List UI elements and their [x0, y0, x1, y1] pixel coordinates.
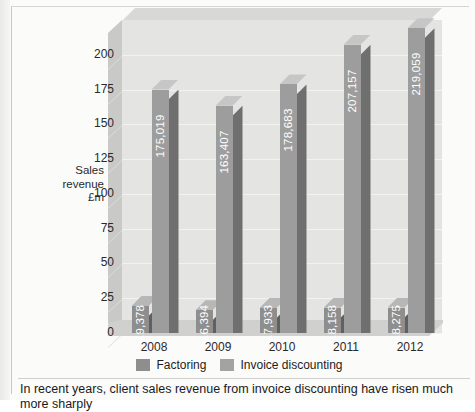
x-axis-label-2009: 2009 — [188, 340, 248, 354]
legend-swatch-icon — [220, 359, 234, 371]
bar-value-label: 178,683 — [282, 109, 294, 152]
y-tick-label-25: 25 — [70, 290, 114, 304]
bar-side-face — [233, 106, 243, 333]
y-axis-title-line-2: revenue — [42, 178, 104, 192]
bar-value-label: 18,158 — [326, 305, 338, 341]
y-tick-label-150: 150 — [70, 116, 114, 130]
bar-top-face — [280, 74, 307, 84]
bar-value-label: 18,275 — [390, 305, 402, 341]
bar-invoice-discounting-2011: 207,157 — [344, 45, 361, 333]
y-tick-label-0: 0 — [70, 325, 114, 339]
y-tick-label-75: 75 — [70, 221, 114, 235]
x-axis-label-2011: 2011 — [316, 340, 376, 354]
caption-text: In recent years, client sales revenue fr… — [20, 382, 465, 412]
bar-value-label: 17,933 — [262, 305, 274, 341]
bar-factoring-2010: 17,933 — [260, 308, 277, 333]
y-tick-label-175: 175 — [70, 82, 114, 96]
bar-side-face — [425, 28, 435, 333]
y-tick-label-125: 125 — [70, 151, 114, 165]
x-axis-labels: 20082009201020112012 — [12, 340, 467, 358]
bar-invoice-discounting-2010: 178,683 — [280, 84, 297, 333]
bar-top-face — [408, 18, 435, 28]
sales-revenue-bar-chart: 19,378175,01916,394163,40717,933178,6831… — [12, 8, 467, 356]
bar-side-face — [361, 45, 371, 333]
legend-label: Factoring — [156, 358, 206, 372]
y-axis-title: Sales revenue £m — [42, 164, 104, 205]
bar-top-face — [344, 35, 371, 45]
y-tick-label-50: 50 — [70, 255, 114, 269]
bar-invoice-discounting-2009: 163,407 — [216, 106, 233, 333]
y-axis-title-line-1: Sales — [42, 164, 104, 178]
bar-value-label: 163,407 — [218, 130, 230, 173]
bar-value-label: 219,059 — [410, 53, 422, 96]
page-border-top — [11, 6, 469, 7]
bar-value-label: 207,157 — [346, 69, 358, 112]
bar-value-label: 175,019 — [154, 114, 166, 157]
x-axis-label-2012: 2012 — [380, 340, 440, 354]
bar-factoring-2009: 16,394 — [196, 310, 213, 333]
bar-side-face — [297, 84, 307, 333]
bar-side-face — [169, 90, 179, 333]
scan-edge — [0, 0, 10, 400]
bar-factoring-2011: 18,158 — [324, 308, 341, 333]
y-axis-title-line-3: £m — [42, 191, 104, 205]
bar-factoring-2012: 18,275 — [388, 308, 405, 333]
bar-value-label: 19,378 — [134, 305, 146, 341]
legend-item-factoring[interactable]: Factoring — [136, 358, 206, 372]
bar-top-face — [152, 80, 179, 90]
x-axis-label-2008: 2008 — [124, 340, 184, 354]
bar-factoring-2008: 19,378 — [132, 306, 149, 333]
legend-swatch-icon — [136, 359, 150, 371]
bar-value-label: 16,394 — [198, 305, 210, 341]
legend-item-invoice-discounting[interactable]: Invoice discounting — [220, 358, 342, 372]
x-axis-label-2010: 2010 — [252, 340, 312, 354]
section-divider — [18, 378, 470, 379]
bar-invoice-discounting-2008: 175,019 — [152, 90, 169, 333]
legend-label: Invoice discounting — [240, 358, 342, 372]
y-tick-label-200: 200 — [70, 47, 114, 61]
bar-invoice-discounting-2012: 219,059 — [408, 28, 425, 333]
chart-legend: FactoringInvoice discounting — [12, 357, 467, 373]
bar-top-face — [216, 96, 243, 106]
